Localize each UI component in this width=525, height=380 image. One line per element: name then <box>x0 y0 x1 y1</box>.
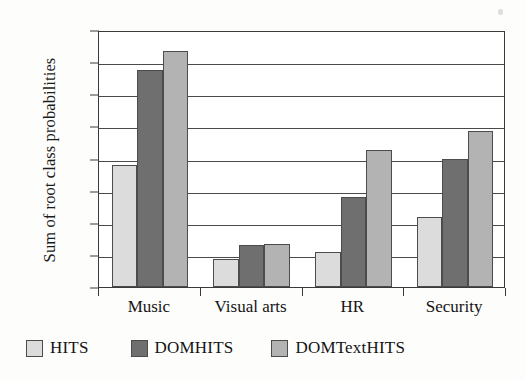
x-tick-mark-4 <box>505 288 506 296</box>
legend-entry-domtexthits[interactable]: DOMTextHITS <box>271 338 405 358</box>
legend-label-domtexthits: DOMTextHITS <box>295 338 405 358</box>
x-axis-label-visual-arts: Visual arts <box>215 297 287 317</box>
scan-artifact-speck <box>498 9 503 15</box>
chart-legend: HITSDOMHITSDOMTextHITS <box>26 338 405 358</box>
legend-entry-hits[interactable]: HITS <box>26 338 89 358</box>
bar-security-domtexthits <box>468 131 494 287</box>
bar-music-domtexthits <box>163 51 189 287</box>
x-tick-mark-3 <box>403 288 404 296</box>
legend-label-domhits: DOMHITS <box>155 338 234 358</box>
bar-visual-arts-hits <box>213 259 239 287</box>
bar-hr-domtexthits <box>366 150 392 287</box>
x-tick-mark-0 <box>98 288 99 296</box>
x-tick-mark-1 <box>200 288 201 296</box>
bar-hr-hits <box>315 252 341 287</box>
x-tick-mark-2 <box>302 288 303 296</box>
legend-swatch-domtexthits <box>271 340 288 357</box>
bar-visual-arts-domhits <box>239 245 265 287</box>
legend-swatch-domhits <box>131 340 148 357</box>
legend-label-hits: HITS <box>50 338 89 358</box>
plot-area <box>98 31 505 288</box>
x-axis-label-music: Music <box>128 297 171 317</box>
legend-entry-domhits[interactable]: DOMHITS <box>131 338 234 358</box>
bar-chart-figure: Sum of root class probabilities 05101520… <box>0 0 525 380</box>
bar-security-hits <box>417 217 443 287</box>
legend-swatch-hits <box>26 340 43 357</box>
bar-visual-arts-domtexthits <box>264 244 290 287</box>
y-axis-title: Sum of root class probabilities <box>40 15 60 305</box>
bar-music-hits <box>112 165 138 287</box>
x-axis-label-security: Security <box>426 297 483 317</box>
x-axis-label-hr: HR <box>341 297 365 317</box>
gridline-35 <box>99 64 504 65</box>
bar-music-domhits <box>137 70 163 287</box>
bar-security-domhits <box>442 159 468 288</box>
bar-hr-domhits <box>341 197 367 287</box>
